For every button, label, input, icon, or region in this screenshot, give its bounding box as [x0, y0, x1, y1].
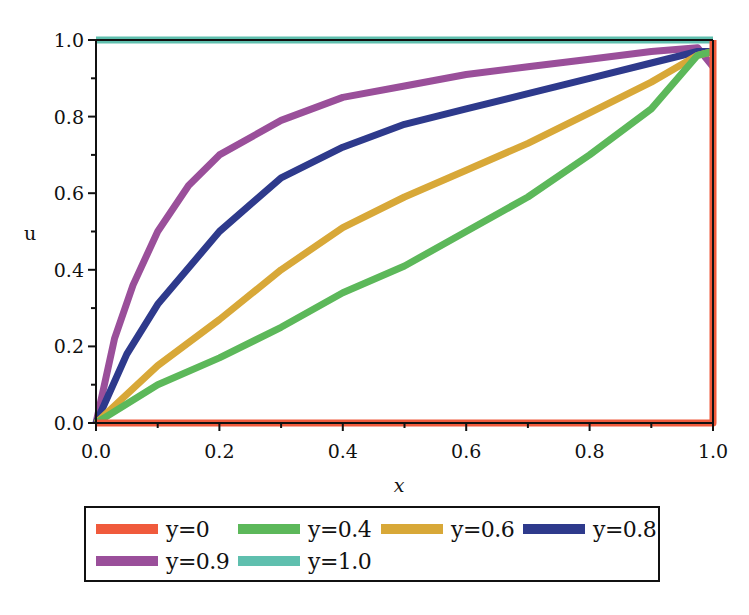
legend-label: y=0: [166, 517, 209, 542]
legend-label: y=0.9: [166, 549, 229, 574]
legend-label: y=0.8: [593, 517, 656, 542]
legend-item-y0: y=0: [96, 516, 209, 542]
plot-lines: [96, 40, 713, 423]
x-axis-title: x: [394, 474, 405, 496]
y-tick-label: 0.2: [54, 335, 84, 357]
x-tick-label: 0.0: [81, 440, 111, 462]
series-line-y04: [96, 52, 713, 424]
x-tick-label: 0.4: [328, 440, 358, 462]
x-tick-label: 0.2: [204, 440, 234, 462]
legend-item-y08: y=0.8: [523, 516, 656, 542]
y-tick-label: 0.4: [54, 259, 84, 281]
y-tick-label: 1.0: [54, 29, 84, 51]
series-line-y06: [96, 52, 713, 424]
legend-swatch: [238, 556, 300, 566]
legend-swatch: [523, 524, 585, 534]
x-tick-label: 0.8: [574, 440, 604, 462]
legend-label: y=1.0: [308, 549, 371, 574]
legend-label: y=0.4: [308, 517, 371, 542]
y-tick-label: 0.0: [54, 412, 84, 434]
legend-item-y06: y=0.6: [381, 516, 514, 542]
legend-item-y09: y=0.9: [96, 548, 229, 574]
legend-swatch: [381, 524, 443, 534]
series-line-y08: [96, 52, 713, 424]
legend-swatch: [238, 524, 300, 534]
series-line-y09: [96, 48, 713, 423]
x-tick-label: 0.6: [451, 440, 481, 462]
legend: y=0 y=0.4 y=0.6 y=0.8 y=0.9 y=1.0: [84, 506, 660, 582]
y-axis-title: u: [24, 222, 36, 244]
legend-label: y=0.6: [451, 517, 514, 542]
legend-item-y04: y=0.4: [238, 516, 371, 542]
y-tick-label: 0.6: [54, 182, 84, 204]
legend-item-y10: y=1.0: [238, 548, 371, 574]
legend-swatch: [96, 556, 158, 566]
legend-swatch: [96, 524, 158, 534]
y-tick-label: 0.8: [54, 106, 84, 128]
x-tick-label: 1.0: [698, 440, 728, 462]
